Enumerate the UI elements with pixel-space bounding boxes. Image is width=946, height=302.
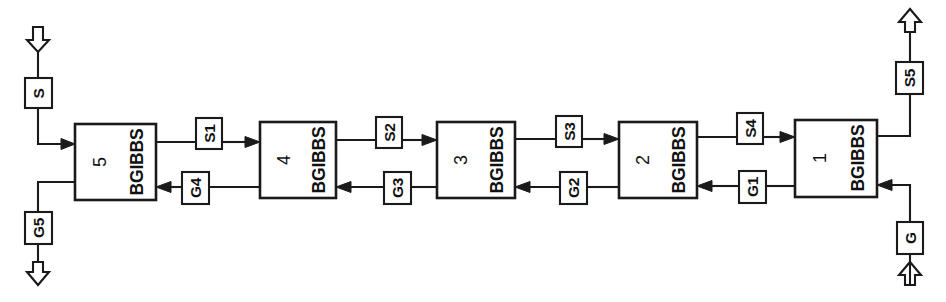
stream-G-inlet-arrowhead-icon	[877, 180, 892, 191]
stream-S-tag-label: S	[30, 88, 47, 98]
stream-S2-arrowhead-icon	[422, 135, 437, 146]
stream-S-wire-lower	[38, 108, 64, 144]
unit-5-number: 5	[90, 157, 110, 167]
stream-S3-tag-label: S3	[561, 122, 578, 141]
stream-G4-tag-label: G4	[187, 177, 204, 198]
stream-G3-tag-label: G3	[389, 177, 406, 198]
unit-4-number: 4	[274, 155, 294, 165]
unit-1-number: 1	[810, 153, 830, 163]
unit-1-group[interactable]: BGIBBS 1	[795, 120, 877, 197]
stream-S4-arrowhead-icon	[780, 132, 795, 143]
unit-3-name: BGIBBS	[487, 127, 507, 194]
unit-3-group[interactable]: BGIBBS 3	[437, 122, 515, 198]
diagram-canvas: S G5 BGIBBS 5 S1	[0, 0, 946, 302]
stream-G5-wire-upper	[38, 182, 75, 212]
stream-G5-arrowhead-icon	[27, 262, 49, 285]
stream-S-inlet-arrowhead-icon	[61, 139, 75, 150]
stream-S5-arrowhead-icon	[899, 9, 921, 32]
stream-S3-arrowhead-icon	[604, 134, 619, 145]
unit-2-group[interactable]: BGIBBS 2	[619, 122, 697, 198]
unit-3-number: 3	[451, 155, 471, 165]
stream-S4-tag-label: S4	[742, 119, 759, 138]
stream-G4-arrowhead-icon	[156, 182, 171, 193]
unit-2-number: 2	[633, 155, 653, 165]
stream-S-arrowhead-icon	[27, 27, 49, 52]
stream-G1-tag-label: G1	[744, 176, 761, 197]
stream-G-tag-label: G	[902, 232, 919, 244]
stream-G5-group: G5	[25, 182, 75, 285]
stream-G1-group: G1	[697, 171, 795, 203]
unit-4-name: BGIBBS	[309, 127, 329, 194]
stream-S4-group: S4	[697, 113, 795, 144]
stream-S5-group: S5	[877, 9, 923, 136]
stream-G3-group: G3	[336, 172, 437, 204]
stream-S5-tag-label: S5	[901, 68, 918, 87]
stream-G4-group: G4	[156, 172, 260, 204]
flowsheet-diagram: S G5 BGIBBS 5 S1	[0, 0, 946, 302]
stream-S2-group: S2	[336, 117, 437, 148]
unit-2-name: BGIBBS	[669, 127, 689, 194]
unit-1-name: BGIBBS	[848, 125, 868, 192]
stream-G1-arrowhead-icon	[697, 181, 712, 192]
stream-G-group: G	[877, 180, 923, 286]
stream-G2-arrowhead-icon	[515, 182, 530, 193]
stream-S1-tag-label: S1	[201, 124, 218, 143]
stream-S1-arrowhead-icon	[245, 137, 260, 148]
stream-G2-group: G2	[515, 172, 619, 204]
stream-S1-group: S1	[156, 118, 260, 149]
stream-S3-group: S3	[515, 116, 619, 147]
stream-S2-tag-label: S2	[381, 123, 398, 141]
unit-5-group[interactable]: BGIBBS 5	[75, 124, 156, 200]
stream-S5-wire-lower	[877, 94, 910, 136]
stream-G5-tag-label: G5	[30, 217, 47, 238]
unit-5-name: BGIBBS	[127, 129, 147, 196]
stream-S-group: S	[25, 27, 75, 150]
stream-G3-arrowhead-icon	[336, 182, 351, 193]
unit-4-group[interactable]: BGIBBS 4	[260, 122, 336, 198]
stream-G2-tag-label: G2	[565, 178, 582, 198]
